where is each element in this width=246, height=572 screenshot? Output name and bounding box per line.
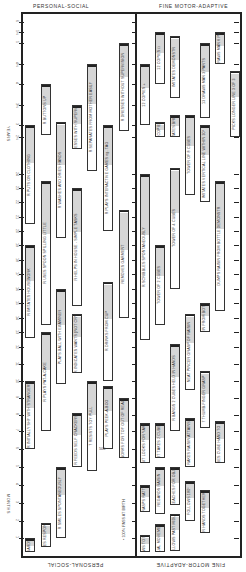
axis-tick [234,260,239,261]
test-item-label: R PLAYS INTERACTIVE GAMES eg. TAG [106,142,110,215]
axis-tick [234,431,239,432]
test-item-label: 13 DRAWS MAN 6 PARTS [218,32,222,64]
right-border-line [240,12,242,558]
fine-motor-header-top: FINE MOTOR-ADAPTIVE [159,3,228,9]
axis-tick [234,347,239,348]
axis-tick [132,84,137,85]
axis-tick [132,381,137,382]
month-tick-label: 20 [15,229,19,233]
axis-tick [19,318,24,319]
test-item-label: R INDICATES WANTS (NOT CRY) [75,314,79,373]
test-item-label: R FEEDS SELF CRACKERS [75,415,79,465]
axis-tick [132,188,137,189]
axis-tick [234,217,239,218]
month-tick-label: 19 [15,243,19,247]
test-item-label: PLAYS PEEK-A-BOO [106,399,110,436]
personal-social-header-top: PERSONAL-SOCIAL [33,3,89,9]
test-item-label: IMITATES DEMONSTR [173,47,177,87]
test-item-bar: 13 DRAWS MAN 3 PARTS [200,43,210,118]
test-item-bar: R INDICATES WANTS (NOT CRY) [72,314,82,373]
test-item-label: EQUAL MOVEMENTS [158,524,162,552]
test-item-bar: FOLLOWS 180° [185,481,195,521]
test-item-label: DUMPS RAISIN FROM BOTTLE DEMONSTR [218,206,222,285]
axis-tick [19,174,24,175]
test-item-bar: R PLAYS INTERACTIVE GAMES eg. TAG [103,125,113,231]
test-item-bar: R DRESSES WITH SUPERVISION [72,105,82,149]
test-item-bar: 7 THUMB-FINGER GRASP [200,371,210,428]
test-item-bar: R HELPS IN HOUSE - SIMPLE TASKS [72,188,82,306]
test-item-bar: REGARDS RAISIN [155,467,165,514]
month-tick-label: 21 [15,215,19,219]
month-tick-label: 18 [15,258,19,262]
test-item-bar: R WASHES AND DRIES HANDS [56,122,66,238]
test-item-bar: R SMILES SPONTANEOUSLY [56,467,66,538]
month-tick-label: 7 [15,429,19,431]
axis-tick [132,503,137,504]
test-item-bar: SIT LOOKS FOR YARN [140,423,150,463]
axis-tick [132,318,137,319]
test-item-label: REGARDS RAISIN [158,474,162,507]
axis-tick [234,364,239,365]
test-item-label: FOLLOWS PAST MIDLINE [173,514,177,551]
test-item-label: REMOVES GARMENT [122,244,126,283]
month-tick-label: 16 [15,287,19,291]
test-item-label: IMITATES BRIDGE [173,115,177,137]
test-item-bar: PASSES CUBE HAND TO HAND [215,421,225,463]
axis-tick [234,188,239,189]
test-item-bar: IMITATES VERTICAL LINE WITHIN 30° [200,125,210,202]
month-tick-label: 11 [15,362,19,366]
month-tick-label: 14 [15,316,19,320]
test-item-label: NEAT PINCER GRASP OF RAISIN [188,321,192,381]
test-item-label: IMITATES VERTICAL LINE WITHIN 30° [203,129,207,198]
month-tick-label: 6 [15,447,19,449]
axis-tick [19,431,24,432]
test-item-label: R DRESSES WITHOUT SUPERVISION [122,53,126,121]
axis-tick [132,415,137,416]
axis-tick [19,274,24,275]
test-item-label: FOLLOWS TO MIDLINE [143,535,147,553]
test-item-label: 7 RESISTS TOY PULL [90,406,94,445]
axis-tick [234,318,239,319]
month-tick-label: 4 [15,483,19,485]
year-tick-label: 4 [15,82,19,84]
axis-tick [234,449,239,450]
axis-tick [19,503,24,504]
test-item-label: 12 COPIES O [158,122,162,137]
test-item-bar: TOWER OF 2 CUBES [155,245,165,325]
pass-at-birth-note: • 100% PASS AT BIRTH [122,499,126,540]
test-item-bar: REMOVES GARMENT [119,210,129,319]
months-axis-label: MONTHS [6,494,11,514]
test-item-bar: 12 COPIES + [140,64,150,125]
axis-tick [234,43,239,44]
test-item-bar: PLAYS PEEK-A-BOO [103,386,113,449]
axis-tick [132,217,137,218]
month-tick-label: 12 [15,345,19,349]
month-tick-label: 3 [15,501,19,503]
test-item-bar: GRASPS RATTLE [140,485,150,512]
axis-tick [132,22,137,23]
axis-tick [19,303,24,304]
test-item-bar: R IMITATES HOUSEWORK [25,245,35,338]
year-tick-label: 3 [15,123,19,125]
month-tick-label: 9 [15,396,19,398]
test-item-label: TOWER OF 8 CUBES [188,136,192,174]
test-item-label: R SMILES SPONTANEOUSLY [59,476,63,529]
test-item-bar: TOWER OF 8 CUBES [185,115,195,195]
axis-tick [234,467,239,468]
test-item-label: WORKS FOR TOY OUT OF REACH [122,398,126,458]
bar-75-90-shade [171,171,179,213]
left-axis-line [21,12,23,558]
axis-tick [19,125,24,126]
test-item-bar: TOWER OF 4 CUBES [170,168,180,289]
month-tick-label: 13 [15,330,19,334]
bottom-border-line [21,556,242,558]
month-tick-label: 15 [15,301,19,305]
axis-tick [234,503,239,504]
test-item-bar: R PUTS ON CLOTHING [25,125,35,224]
month-tick-label: 23 [15,186,19,190]
year-tick-label: 5 [15,41,19,43]
month-tick-label: 5 [15,465,19,467]
axis-tick [234,174,239,175]
test-item-label: SIT TAKES 2 CUBES [158,423,162,458]
note-500: 500 [99,447,105,451]
